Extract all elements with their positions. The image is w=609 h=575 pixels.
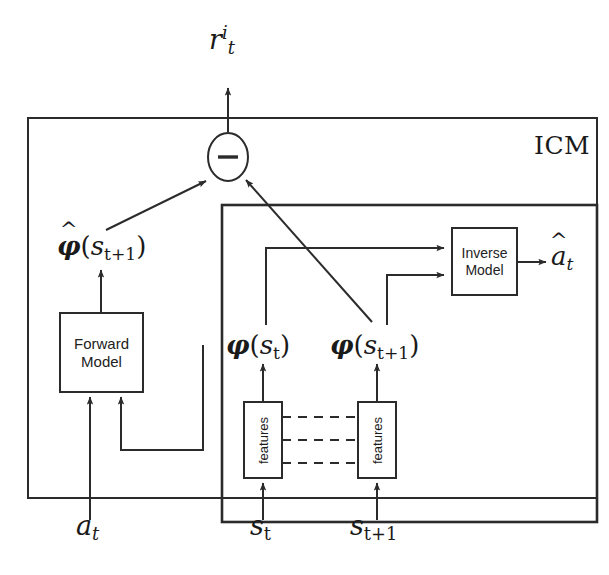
action-label: at xyxy=(76,512,99,539)
action-hat-symbol: ^a xyxy=(551,241,567,271)
inverse-model-line2: Model xyxy=(465,262,503,278)
phi-symbol: φ xyxy=(330,330,354,360)
state-next-label: st+1 xyxy=(350,512,397,539)
forward-model-line1: Forward xyxy=(74,335,129,352)
arrow-phihat-to-subtract xyxy=(106,181,206,230)
phi-hat-arg-base: s xyxy=(91,231,104,261)
icm-label: ICM xyxy=(534,133,590,158)
icm-architecture-diagram xyxy=(0,0,609,575)
state-subscript: t xyxy=(264,523,271,544)
phi-symbol: φ xyxy=(226,330,250,360)
arrow-phicurrent-to-inversemodel xyxy=(266,248,444,325)
action-base: a xyxy=(76,510,92,541)
features-right-label: features xyxy=(371,417,384,464)
reward-subscript: t xyxy=(228,37,235,58)
phi-hat-symbol: ^φ xyxy=(57,231,81,261)
icm-outer-box xyxy=(28,118,597,498)
state-current-label: st xyxy=(250,512,271,539)
action-hat-subscript: t xyxy=(567,254,574,274)
reward-label: rit xyxy=(209,26,235,53)
paren-open: ( xyxy=(250,330,260,360)
action-subscript: t xyxy=(92,523,99,544)
state-subscript: t+1 xyxy=(364,523,397,544)
dashed-feature-links xyxy=(282,417,358,463)
paren-open: ( xyxy=(81,231,91,261)
inverse-model-label: Inverse Model xyxy=(452,228,517,295)
phi-arg-base: s xyxy=(364,330,377,360)
phi-arg-subscript: t xyxy=(273,343,280,363)
arrow-phinext-to-subtract xyxy=(246,180,372,322)
state-base: s xyxy=(250,510,264,541)
arrow-phinext-to-inversemodel xyxy=(387,275,444,325)
reward-base: r xyxy=(209,24,222,55)
phi-hat-arg-subscript: t+1 xyxy=(104,244,136,264)
phi-arg-base: s xyxy=(260,330,273,360)
phi-hat-next-label: ^φ(st+1) xyxy=(57,233,146,259)
features-left-label: features xyxy=(257,417,270,464)
forward-model-line2: Model xyxy=(81,353,122,370)
phi-next-label: φ(st+1) xyxy=(330,332,419,358)
inverse-model-line1: Inverse xyxy=(462,245,508,261)
paren-close: ) xyxy=(136,231,146,261)
phi-arg-subscript: t+1 xyxy=(377,343,409,363)
features-right-label-wrap: features xyxy=(358,402,396,478)
features-left-label-wrap: features xyxy=(244,402,282,478)
action-hat-label: ^at xyxy=(551,243,573,269)
paren-close: ) xyxy=(280,330,290,360)
forward-model-label: Forward Model xyxy=(60,313,143,392)
state-base: s xyxy=(350,510,364,541)
paren-close: ) xyxy=(409,330,419,360)
phi-current-label: φ(st) xyxy=(226,332,290,358)
paren-open: ( xyxy=(354,330,364,360)
